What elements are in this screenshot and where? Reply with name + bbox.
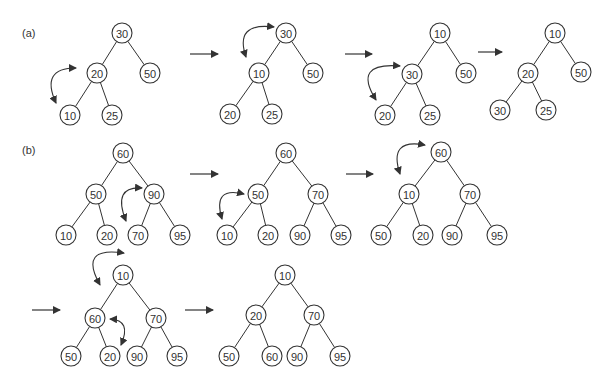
- tree-edge: [129, 161, 148, 186]
- swap-arrow-icon: [220, 192, 244, 219]
- tree-node: 20: [258, 225, 278, 245]
- tree-edge: [447, 160, 465, 186]
- node-value: 60: [89, 313, 101, 325]
- tree-node: 95: [331, 225, 351, 245]
- node-value: 60: [280, 148, 292, 160]
- node-value: 95: [491, 230, 503, 242]
- tree-node: 60: [431, 142, 451, 162]
- tree-a-1: 3020501025: [60, 23, 160, 125]
- swap-arrow-icon: [51, 68, 76, 103]
- tree-b-5: 10207050609095: [219, 265, 350, 366]
- node-value: 90: [446, 230, 458, 242]
- node-value: 10: [434, 28, 446, 40]
- node-value: 90: [148, 189, 160, 201]
- tree-edge: [292, 161, 312, 186]
- tree-edge: [456, 203, 466, 226]
- tree-a-4: 1020503025: [490, 23, 591, 120]
- tree-b-4: 10607050209095: [61, 265, 187, 366]
- node-value: 10: [60, 230, 72, 242]
- tree-node: 20: [246, 305, 266, 325]
- tree-node: 70: [128, 225, 148, 245]
- tree-edge: [99, 327, 107, 346]
- node-value: 20: [379, 110, 391, 122]
- tree-node: 90: [442, 225, 462, 245]
- tree-edge: [561, 41, 576, 63]
- node-value: 25: [424, 110, 436, 122]
- tree-edge: [75, 81, 91, 106]
- tree-edge: [233, 202, 252, 227]
- tree-edge: [260, 324, 269, 346]
- tree-edge: [418, 41, 435, 65]
- tree-edge: [445, 41, 460, 64]
- tree-edge: [475, 202, 491, 226]
- node-value: 10: [279, 270, 291, 282]
- node-value: 60: [117, 148, 129, 160]
- swap-arrow-icon: [368, 66, 400, 100]
- tree-edge: [159, 202, 174, 226]
- tree-edge: [387, 202, 404, 226]
- node-value: 70: [132, 230, 144, 242]
- tree-edge: [141, 327, 151, 347]
- node-value: 60: [266, 351, 278, 363]
- tree-edge: [390, 82, 406, 106]
- node-value: 25: [540, 105, 552, 117]
- tree-node: 10: [399, 184, 419, 204]
- node-value: 25: [266, 109, 278, 121]
- tree-edge: [76, 326, 89, 347]
- node-value: 50: [90, 189, 102, 201]
- tree-edge: [129, 283, 150, 310]
- tree-node: 50: [248, 184, 268, 204]
- node-value: 20: [250, 310, 262, 322]
- tree-edge: [72, 202, 90, 227]
- tree-node: 95: [330, 346, 350, 366]
- tree-edge: [301, 324, 310, 347]
- tree-edge: [323, 203, 336, 227]
- node-value: 50: [144, 68, 156, 80]
- tree-node: 95: [167, 346, 187, 366]
- tree-edge: [102, 41, 116, 64]
- tree-node: 50: [140, 63, 160, 83]
- tree-node: 50: [456, 63, 476, 83]
- swap-arrow-icon: [397, 144, 425, 174]
- swap-arrow-icon: [110, 319, 125, 345]
- tree-a-2: 3010502025: [220, 23, 323, 124]
- tree-node: 10: [217, 225, 237, 245]
- tree-node: 50: [86, 184, 106, 204]
- tree-edge: [262, 283, 279, 307]
- tree-a-3: 1030502025: [375, 23, 476, 125]
- tree-node: 70: [304, 305, 324, 325]
- tree-node: 20: [97, 225, 117, 245]
- node-value: 10: [253, 68, 265, 80]
- node-value: 50: [375, 230, 387, 242]
- node-value: 95: [334, 351, 346, 363]
- node-value: 10: [64, 110, 76, 122]
- tree-node: 25: [262, 104, 282, 124]
- tree-node: 50: [303, 63, 323, 83]
- node-value: 10: [549, 28, 561, 40]
- tree-node: 60: [276, 143, 296, 163]
- tree-edge: [260, 204, 265, 226]
- node-value: 70: [464, 189, 476, 201]
- node-value: 20: [417, 230, 429, 242]
- node-value: 50: [65, 351, 77, 363]
- tree-edge: [264, 161, 281, 185]
- tree-edge: [142, 203, 151, 225]
- tree-node: 70: [146, 308, 166, 328]
- tree-edge: [101, 161, 117, 185]
- tree-node: 50: [219, 346, 239, 366]
- tree-node: 20: [100, 346, 120, 366]
- tree-edge: [532, 82, 541, 101]
- tree-edge: [304, 203, 314, 226]
- tree-node: 30: [276, 23, 296, 43]
- tree-node: 20: [518, 63, 538, 83]
- node-value: 20: [91, 68, 103, 80]
- tree-node: 30: [112, 23, 132, 43]
- tree-node: 90: [287, 346, 307, 366]
- node-value: 30: [116, 28, 128, 40]
- node-value: 90: [291, 351, 303, 363]
- tree-edge: [236, 81, 253, 106]
- node-value: 20: [101, 230, 113, 242]
- node-value: 50: [575, 67, 587, 79]
- panel-label-b: (b): [22, 144, 35, 156]
- node-value: 90: [294, 230, 306, 242]
